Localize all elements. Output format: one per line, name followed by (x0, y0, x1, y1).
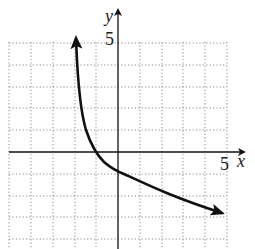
graph-canvas (0, 0, 255, 249)
y-tick-label-5: 5 (105, 30, 114, 48)
x-tick-label-5: 5 (220, 155, 229, 173)
y-axis-label: y (105, 7, 113, 25)
x-axis-label: x (237, 152, 245, 170)
